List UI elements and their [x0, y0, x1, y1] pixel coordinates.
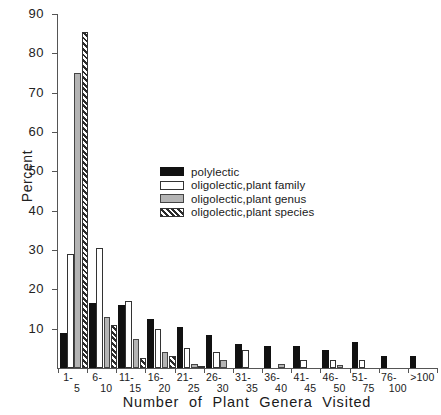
- bar-polylectic: [293, 346, 300, 368]
- y-axis-tick-label: 70: [10, 85, 44, 100]
- chart-legend: polylecticoligolectic,plant familyoligol…: [160, 165, 314, 219]
- bar-group: [350, 14, 379, 368]
- bar-genus: [133, 339, 140, 369]
- bar-family: [213, 352, 220, 368]
- bar-family: [96, 248, 103, 368]
- bar-genus: [104, 317, 111, 368]
- bar-group: [320, 14, 349, 368]
- bar-group: [58, 14, 87, 368]
- bar-polylectic: [206, 335, 213, 368]
- bar-family: [155, 329, 162, 368]
- x-axis-category-label: >100: [402, 372, 441, 383]
- bar-family: [67, 254, 74, 368]
- legend-item: oligolectic,plant species: [160, 206, 314, 220]
- legend-swatch-polylectic: [160, 167, 184, 176]
- y-axis-tick-label: 10: [10, 321, 44, 336]
- y-axis-tick-label: 30: [10, 242, 44, 257]
- bar-polylectic: [60, 333, 67, 368]
- legend-item: polylectic: [160, 165, 314, 179]
- bar-family: [359, 360, 366, 368]
- bar-family: [184, 348, 191, 368]
- legend-label: oligolectic,plant family: [191, 179, 305, 191]
- bar-group: [87, 14, 116, 368]
- bar-polylectic: [322, 350, 329, 368]
- bar-polylectic: [352, 342, 359, 368]
- bar-genus: [74, 73, 81, 368]
- bar-polylectic: [118, 305, 125, 368]
- bar-group: [408, 14, 437, 368]
- bar-group: [379, 14, 408, 368]
- bar-polylectic: [147, 319, 154, 368]
- bar-genus: [220, 360, 227, 368]
- bar-polylectic: [89, 303, 96, 368]
- y-axis-tick-label: 80: [10, 45, 44, 60]
- x-axis-title: Number of Plant Genera Visited: [57, 394, 437, 410]
- legend-label: polylectic: [191, 166, 239, 178]
- bar-family: [330, 360, 337, 368]
- y-axis-tick-label: 20: [10, 281, 44, 296]
- bar-family: [300, 360, 307, 368]
- bar-family: [242, 350, 249, 368]
- y-axis-tick-label: 40: [10, 203, 44, 218]
- legend-item: oligolectic,plant genus: [160, 192, 314, 206]
- legend-swatch-species: [160, 208, 184, 217]
- bar-polylectic: [410, 356, 417, 368]
- bar-polylectic: [381, 356, 388, 368]
- y-axis-tick-label: 50: [10, 163, 44, 178]
- bar-family: [125, 301, 132, 368]
- bar-group: [116, 14, 145, 368]
- y-axis-tick-label: 90: [10, 6, 44, 21]
- bar-genus: [162, 352, 169, 368]
- legend-label: oligolectic,plant species: [191, 206, 314, 218]
- y-axis-tick-label: 60: [10, 124, 44, 139]
- legend-swatch-family: [160, 181, 184, 190]
- bar-polylectic: [235, 344, 242, 368]
- x-axis-line: [57, 368, 437, 369]
- bar-polylectic: [264, 346, 271, 368]
- bar-chart: Percent 102030405060708090 1-56-1011-151…: [0, 0, 441, 415]
- legend-swatch-genus: [160, 194, 184, 203]
- legend-item: oligolectic,plant family: [160, 179, 314, 193]
- legend-label: oligolectic,plant genus: [191, 193, 306, 205]
- bar-polylectic: [177, 327, 184, 368]
